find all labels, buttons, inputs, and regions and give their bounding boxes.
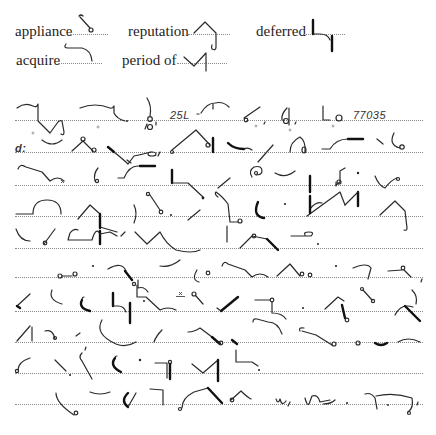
passage-line-5 xyxy=(16,226,319,252)
passage-line-6 xyxy=(58,260,422,292)
vocab-outline-deferred xyxy=(313,20,332,51)
vocab-outline-appliance xyxy=(79,15,93,32)
shorthand-outlines xyxy=(0,0,436,435)
passage-line-3 xyxy=(18,160,400,199)
passage-line-4 xyxy=(16,192,407,232)
vocab-outline-period-of xyxy=(184,53,206,71)
vocab-outline-acquire xyxy=(65,44,92,61)
passage-line-7 xyxy=(17,285,420,323)
vocab-outline-reputation xyxy=(194,22,216,50)
passage-line-8 xyxy=(17,319,420,350)
passage-line-1 xyxy=(17,98,342,144)
passage-line-2 xyxy=(72,130,404,164)
passage-line-10 xyxy=(56,388,418,415)
passage-line-9 xyxy=(15,350,260,381)
